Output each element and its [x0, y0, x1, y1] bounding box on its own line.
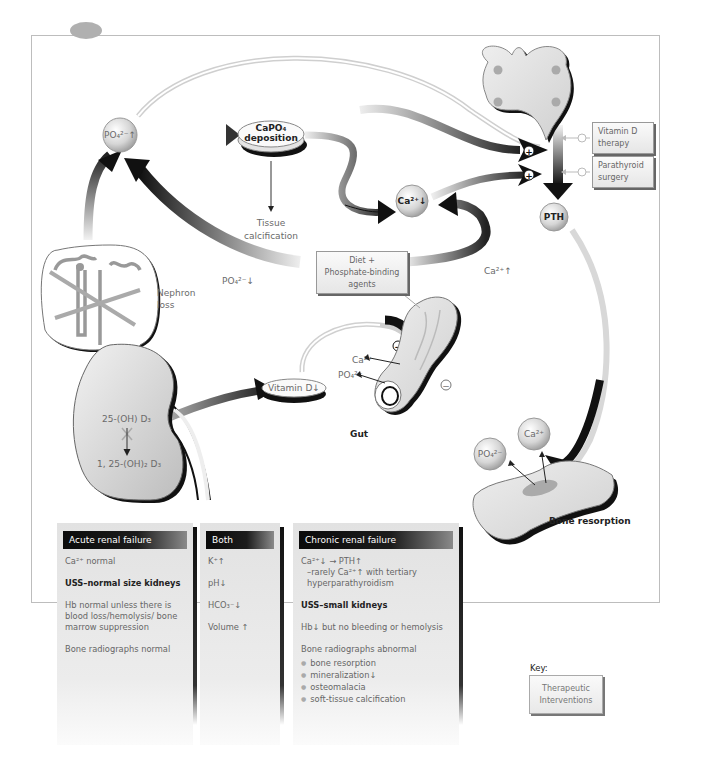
vitamin-d-node: Vitamin D↓ — [262, 379, 326, 403]
arrow-pth-to-bone — [550, 230, 607, 474]
acute-item: Hb normal unless there is blood loss/hem… — [65, 600, 185, 633]
svg-text:deposition: deposition — [244, 133, 298, 143]
svg-text:PTH: PTH — [544, 212, 564, 222]
key-box-text: Interventions — [540, 696, 593, 705]
both-item: Volume ↑ — [208, 622, 272, 633]
tissue-calcification-label: Tissue — [256, 218, 286, 228]
arrow-phosphate-loop — [140, 170, 300, 262]
nephron-loss-label: Nephron — [157, 288, 195, 298]
chronic-renal-failure-header: Chronic renal failure — [299, 531, 453, 549]
key-label: Key: — [530, 663, 548, 673]
bone-calcium-node: Ca²⁺ — [518, 418, 550, 450]
chronic-item: Ca²⁺↓ → PTH↑ — [301, 556, 451, 567]
diet-phosphate-binding-text: Diet + Phosphate-binding agents — [325, 255, 400, 291]
nephron-loss-label: loss — [157, 300, 175, 310]
calcium-low-node: Ca²⁺↓ — [396, 185, 428, 217]
pth-node: PTH — [540, 203, 568, 231]
arrow-parathyroid-to-pth — [553, 125, 563, 185]
svg-text:Vitamin D↓: Vitamin D↓ — [268, 383, 320, 393]
svg-text:−: − — [442, 381, 450, 391]
chronic-bone-finding: bone resorption — [301, 657, 451, 669]
chronic-bone-finding: soft-tissue calcification — [301, 693, 451, 705]
svg-text:PO₄²⁻↑: PO₄²⁻↑ — [104, 130, 136, 140]
phosphate-decrease-label: PO₄²⁻↓ — [222, 276, 254, 286]
chronic-bone-findings-list: bone resorption mineralization↓ osteomal… — [301, 657, 451, 705]
kidney-product-label: 1, 25-(OH)₂ D₃ — [97, 459, 161, 469]
chronic-item: Bone radiographs abnormal — [301, 644, 451, 655]
both-header: Both — [206, 531, 274, 549]
svg-text:+: + — [525, 147, 533, 157]
svg-text:CaPO₄: CaPO₄ — [256, 123, 287, 133]
svg-text:PO₄²⁻: PO₄²⁻ — [478, 449, 503, 459]
acute-item: Ca²⁺ normal — [65, 556, 185, 567]
inhibit-connector-vitamin-d — [561, 134, 590, 142]
parathyroid-surgery-text: Parathyroidsurgery — [598, 161, 644, 182]
chronic-item: USS–small kidneys — [301, 600, 451, 611]
both-item: pH↓ — [208, 578, 272, 589]
svg-text:Ca²⁺: Ca²⁺ — [524, 429, 544, 439]
capo4-deposition-node: CaPO₄ deposition — [238, 121, 307, 157]
gut-icon — [375, 297, 461, 415]
acute-renal-failure-header: Acute renal failure — [63, 531, 187, 549]
stimulate-symbol: + — [524, 170, 534, 181]
acute-renal-failure-panel: Acute renal failure Ca²⁺ normal USS–norm… — [57, 523, 193, 745]
inhibit-symbol: − — [441, 380, 451, 391]
vitamin-d-therapy-box: Vitamin Dtherapy — [592, 122, 654, 154]
acute-item: Bone radiographs normal — [65, 644, 185, 655]
key-therapeutic-interventions-box: Therapeutic Interventions — [529, 675, 603, 714]
calcium-increase-label: Ca²⁺↑ — [484, 266, 512, 276]
both-item: HCO₃⁻↓ — [208, 600, 272, 611]
bone-resorption-label: Bone resorption — [549, 516, 631, 526]
phosphate-high-node: PO₄²⁻↑ — [103, 118, 137, 152]
bone-icon — [473, 461, 618, 545]
key-box-text: Therapeutic — [542, 684, 590, 693]
chronic-item: Hb↓ but no bleeding or hemolysis — [301, 622, 451, 633]
inhibit-connector-surgery — [561, 168, 590, 176]
diet-phosphate-binding-box: Diet + Phosphate-binding agents — [316, 251, 408, 294]
acute-item: USS–normal size kidneys — [65, 578, 185, 589]
gut-label: Gut — [350, 429, 369, 439]
arrow-deposition-to-ca — [305, 135, 385, 212]
chronic-renal-failure-panel: Chronic renal failure Ca²⁺↓ → PTH↑ –rare… — [293, 523, 459, 745]
bone-phosphate-node: PO₄²⁻ — [474, 438, 506, 470]
vitamin-d-therapy-text: Vitamin Dtherapy — [598, 127, 637, 148]
kidney-precursor-label: 25-(OH) D₃ — [102, 414, 151, 424]
both-panel: Both K⁺↑ pH↓ HCO₃⁻↓ Volume ↑ — [200, 523, 280, 745]
svg-text:+: + — [525, 171, 533, 181]
arrow-ca-to-parathyroid — [432, 175, 525, 197]
chronic-bone-finding: mineralization↓ — [301, 669, 451, 681]
tissue-calcification-label: calcification — [244, 231, 298, 241]
chronic-item: –rarely Ca²⁺↑ with tertiary hyperparathy… — [301, 567, 451, 589]
parathyroid-surgery-box: Parathyroidsurgery — [592, 156, 654, 188]
chronic-bone-finding: osteomalacia — [301, 681, 451, 693]
both-item: K⁺↑ — [208, 556, 272, 567]
arrow-kidney-to-po4 — [88, 155, 110, 240]
stimulate-symbol: + — [524, 146, 534, 157]
svg-text:Ca²⁺↓: Ca²⁺↓ — [398, 196, 427, 206]
